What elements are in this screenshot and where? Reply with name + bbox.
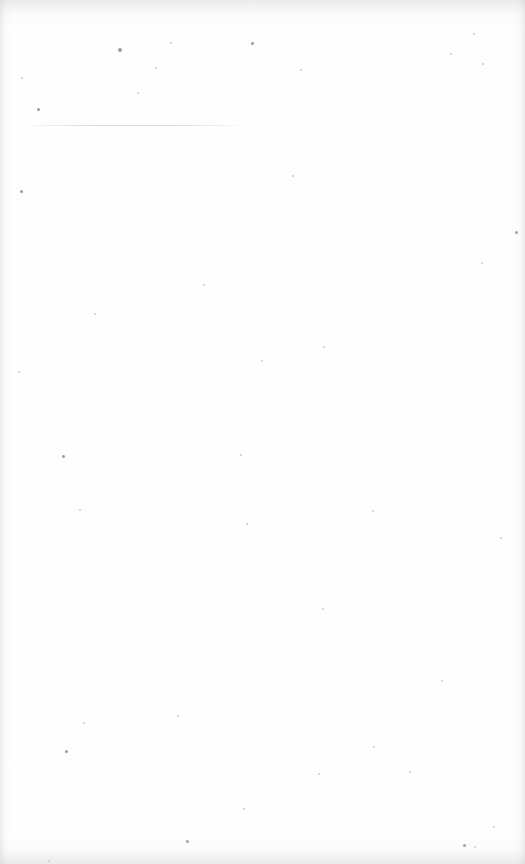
dust-speck bbox=[79, 509, 81, 511]
dust-speck bbox=[155, 67, 157, 69]
dust-speck bbox=[246, 523, 248, 525]
dust-speck bbox=[463, 844, 466, 847]
dust-speck bbox=[261, 360, 263, 362]
dust-speck bbox=[240, 454, 242, 456]
dust-speck bbox=[251, 42, 254, 45]
dust-speck bbox=[203, 284, 205, 286]
dust-speck bbox=[482, 63, 484, 65]
dust-speck bbox=[474, 846, 476, 848]
dust-speck bbox=[473, 33, 475, 35]
dust-speck bbox=[441, 680, 443, 682]
dust-speck bbox=[500, 537, 502, 539]
dust-speck bbox=[18, 371, 20, 373]
dust-speck bbox=[372, 510, 374, 512]
dust-speck bbox=[300, 69, 302, 71]
dust-speck bbox=[323, 346, 325, 348]
dust-speck bbox=[493, 826, 495, 828]
dust-speck bbox=[94, 313, 96, 315]
dust-speck bbox=[170, 42, 172, 44]
dust-speck bbox=[409, 771, 411, 773]
dust-speck bbox=[481, 262, 483, 264]
dust-speck bbox=[20, 190, 23, 193]
dust-speck bbox=[21, 77, 23, 79]
dust-speck bbox=[83, 722, 85, 724]
blank-document-page bbox=[0, 0, 525, 864]
dust-speck bbox=[48, 860, 50, 862]
dust-speck bbox=[292, 175, 294, 177]
dust-speck bbox=[137, 92, 139, 94]
dust-speck bbox=[373, 746, 375, 748]
dust-speck bbox=[318, 773, 320, 775]
dust-speck bbox=[322, 608, 324, 610]
dust-speck bbox=[65, 750, 68, 753]
faint-horizontal-rule bbox=[30, 125, 240, 126]
dust-speck bbox=[515, 231, 518, 234]
dust-speck bbox=[243, 808, 245, 810]
dust-speck bbox=[186, 840, 189, 843]
dust-speck bbox=[62, 455, 65, 458]
dust-speck bbox=[37, 108, 40, 111]
page-content-area bbox=[0, 0, 525, 864]
dust-speck bbox=[450, 53, 452, 55]
dust-speck bbox=[118, 48, 122, 52]
dust-speck bbox=[177, 715, 179, 717]
